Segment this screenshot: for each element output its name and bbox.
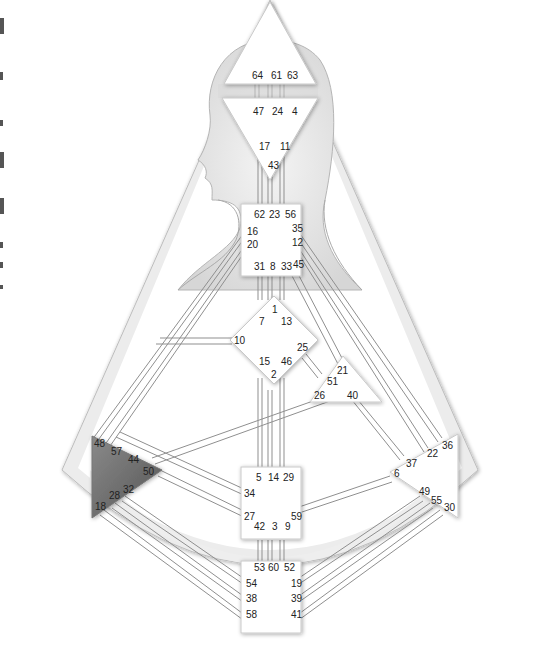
gate-15: 15 bbox=[259, 356, 271, 367]
gate-57: 57 bbox=[111, 446, 123, 457]
gate-44: 44 bbox=[128, 454, 140, 465]
gate-59: 59 bbox=[291, 511, 303, 522]
gate-16: 16 bbox=[247, 226, 259, 237]
gate-3: 3 bbox=[272, 521, 278, 532]
gate-35: 35 bbox=[292, 223, 304, 234]
gate-38: 38 bbox=[246, 593, 258, 604]
gate-4: 4 bbox=[292, 106, 298, 117]
gate-48: 48 bbox=[94, 438, 106, 449]
gate-23: 23 bbox=[269, 209, 281, 220]
gate-42: 42 bbox=[254, 521, 266, 532]
gate-55: 55 bbox=[431, 495, 443, 506]
gate-22: 22 bbox=[427, 448, 439, 459]
gate-7: 7 bbox=[259, 316, 265, 327]
gate-24: 24 bbox=[272, 106, 284, 117]
head-center bbox=[224, 2, 316, 84]
gate-41: 41 bbox=[291, 609, 303, 620]
gate-62: 62 bbox=[254, 209, 266, 220]
gate-63: 63 bbox=[287, 70, 299, 81]
gate-64: 64 bbox=[252, 70, 264, 81]
gate-13: 13 bbox=[281, 316, 293, 327]
gate-10: 10 bbox=[234, 335, 246, 346]
gate-8: 8 bbox=[270, 261, 276, 272]
gate-25: 25 bbox=[297, 342, 309, 353]
gate-47: 47 bbox=[253, 106, 265, 117]
gate-43: 43 bbox=[268, 160, 280, 171]
gate-20: 20 bbox=[247, 239, 259, 250]
gate-21: 21 bbox=[337, 365, 349, 376]
gate-54: 54 bbox=[246, 578, 258, 589]
gate-1: 1 bbox=[272, 304, 278, 315]
gate-50: 50 bbox=[143, 466, 155, 477]
gate-51: 51 bbox=[327, 376, 339, 387]
gate-14: 14 bbox=[268, 472, 280, 483]
gate-31: 31 bbox=[254, 261, 266, 272]
gate-53: 53 bbox=[254, 562, 266, 573]
gate-37: 37 bbox=[406, 458, 418, 469]
cropped-edge-text bbox=[0, 0, 12, 310]
gate-33: 33 bbox=[281, 261, 293, 272]
gate-29: 29 bbox=[283, 472, 295, 483]
gate-28: 28 bbox=[109, 490, 121, 501]
gate-36: 36 bbox=[442, 440, 454, 451]
gate-60: 60 bbox=[268, 562, 280, 573]
gate-6: 6 bbox=[394, 468, 400, 479]
gate-40: 40 bbox=[347, 390, 359, 401]
gate-56: 56 bbox=[285, 209, 297, 220]
gate-12: 12 bbox=[292, 237, 304, 248]
gate-49: 49 bbox=[419, 486, 431, 497]
head-gates: 64 61 63 bbox=[252, 70, 299, 81]
gate-17: 17 bbox=[259, 141, 271, 152]
gate-45: 45 bbox=[293, 259, 305, 270]
gate-11: 11 bbox=[280, 141, 291, 152]
gate-19: 19 bbox=[291, 578, 303, 589]
gate-2: 2 bbox=[271, 369, 277, 380]
gate-61: 61 bbox=[271, 70, 283, 81]
gate-32: 32 bbox=[123, 484, 135, 495]
gate-9: 9 bbox=[285, 521, 291, 532]
gate-39: 39 bbox=[291, 593, 303, 604]
gate-58: 58 bbox=[246, 609, 258, 620]
gate-30: 30 bbox=[444, 502, 456, 513]
gate-52: 52 bbox=[284, 562, 296, 573]
bodygraph-svg: 64 61 63 47 24 4 17 11 43 62 23 56 16 35… bbox=[0, 0, 542, 657]
gate-46: 46 bbox=[281, 356, 293, 367]
gate-18: 18 bbox=[95, 501, 107, 512]
gate-34: 34 bbox=[244, 488, 256, 499]
gate-26: 26 bbox=[314, 390, 326, 401]
bodygraph-diagram: 64 61 63 47 24 4 17 11 43 62 23 56 16 35… bbox=[0, 0, 542, 657]
gate-5: 5 bbox=[256, 472, 262, 483]
